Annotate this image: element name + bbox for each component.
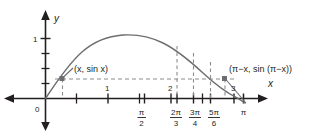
three-pi-over-4-numerator: 3π <box>190 108 200 117</box>
x-tick-label-three-pi-over-4: 3π 4 <box>189 108 201 128</box>
x-tick-label-3: 3 <box>231 84 236 93</box>
x-tick-label-five-pi-over-6: 5π 6 <box>208 108 220 128</box>
y-axis-arrow-down <box>41 122 50 131</box>
right-point-leader-line <box>225 79 246 104</box>
two-pi-over-3-numerator: 2π <box>171 108 181 117</box>
three-pi-over-4-denominator: 4 <box>193 119 198 128</box>
pi-over-2-denominator: 2 <box>139 119 144 128</box>
y-tick-label-1: 1 <box>33 35 38 44</box>
x-tick-label-pi-over-2: π 2 <box>138 108 147 128</box>
five-pi-over-6-denominator: 6 <box>212 119 217 128</box>
two-pi-over-3-denominator: 3 <box>174 119 179 128</box>
sine-curve-figure: y x 0 1 1 2 3 π 2 2π 3 3π 4 5π <box>0 0 326 134</box>
pi-over-2-numerator: π <box>139 108 145 117</box>
x-tick-label-2: 2 <box>168 84 173 93</box>
figure-canvas: y x 0 1 1 2 3 π 2 2π 3 3π 4 5π <box>0 0 326 134</box>
left-point-annotation: (x, sin x) <box>74 64 108 74</box>
origin-label: 0 <box>35 105 40 114</box>
x-tick-label-two-pi-over-3: 2π 3 <box>170 108 182 128</box>
x-tick-label-1: 1 <box>105 84 110 93</box>
x-tick-label-pi: π <box>241 108 247 117</box>
right-point-annotation: (π−x, sin (π−x)) <box>229 64 292 74</box>
y-axis-arrow-up <box>41 10 50 20</box>
five-pi-over-6-numerator: 5π <box>209 108 219 117</box>
y-axis-label: y <box>53 13 60 24</box>
x-axis-arrow-left <box>4 94 14 103</box>
x-axis-arrow-right <box>258 94 268 103</box>
x-axis-label: x <box>267 78 274 89</box>
